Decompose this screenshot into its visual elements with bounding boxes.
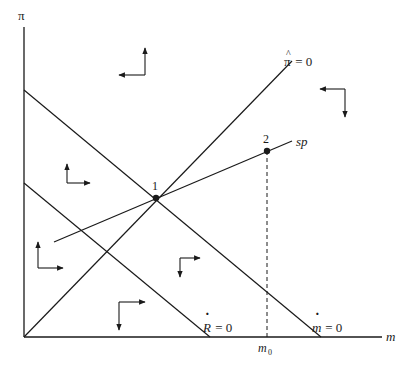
arrow-pair-left-lower	[38, 242, 63, 268]
sp-line	[54, 141, 292, 242]
y-axis-label: π	[18, 8, 25, 23]
r-dot-label-rest: = 0	[212, 320, 232, 335]
direction-arrows	[38, 48, 345, 330]
pi-hat-label-rest: = 0	[292, 54, 312, 69]
m0-marker: m 0	[258, 341, 272, 357]
curve-labels: ^ π = 0 sp · R = 0 · m = 0	[202, 48, 342, 335]
point-2	[264, 148, 270, 154]
sp-label: sp	[296, 134, 308, 149]
curves	[24, 61, 321, 337]
arrow-pair-top-left	[119, 48, 145, 75]
arrow-pair-top-right	[320, 89, 345, 117]
x-axis-label: m	[386, 329, 395, 344]
arrow-pair-center-right	[180, 258, 200, 277]
point-2-label: 2	[263, 132, 269, 146]
m-dot-label-symbol: m	[312, 320, 321, 335]
m0-subscript: 0	[268, 348, 272, 357]
point-1	[153, 195, 159, 201]
point-1-label: 1	[152, 179, 158, 193]
phase-diagram: π m ^ π = 0 sp · R = 0 · m = 0 1 2 m 0	[0, 0, 407, 368]
r-dot-label-symbol: R	[202, 320, 211, 335]
m0-label: m	[258, 341, 267, 355]
r-dot-zero-line	[24, 183, 210, 337]
m-dot-label-rest: = 0	[322, 320, 342, 335]
pi-hat-label-symbol: π	[284, 54, 291, 69]
axes: π m	[18, 8, 395, 344]
arrow-pair-left-middle	[67, 164, 90, 183]
arrow-pair-bottom	[119, 302, 145, 330]
equilibrium-points: 1 2	[152, 132, 270, 201]
m-dot-zero-line	[24, 90, 321, 337]
